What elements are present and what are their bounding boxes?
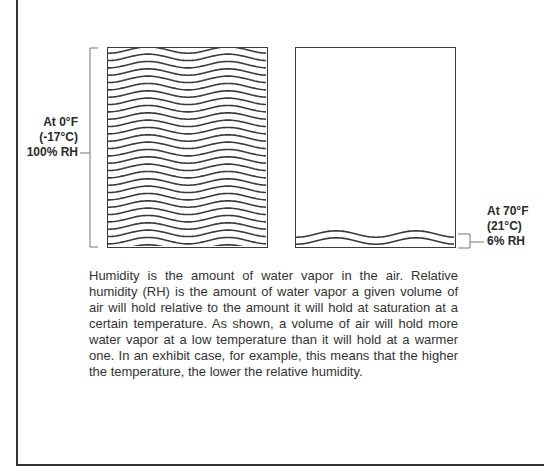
cold-humidity: 100% RH [20, 145, 78, 160]
warm-humidity: 6% RH [487, 234, 544, 249]
warm-air-container [295, 47, 456, 248]
warm-temp-c: (21°C) [487, 219, 544, 234]
water-vapor-waves-low [296, 48, 454, 246]
water-vapor-waves-full [108, 48, 266, 246]
cold-air-container [107, 47, 268, 248]
cold-temp-f: At 0°F [20, 115, 78, 130]
humidity-explanation-paragraph: Humidity is the amount of water vapor in… [89, 268, 458, 380]
cold-temp-c: (-17°C) [20, 130, 78, 145]
bracket-lines [0, 0, 544, 476]
warm-container-label: At 70°F (21°C) 6% RH [487, 204, 544, 249]
warm-temp-f: At 70°F [487, 204, 544, 219]
cold-container-label: At 0°F (-17°C) 100% RH [20, 115, 78, 160]
